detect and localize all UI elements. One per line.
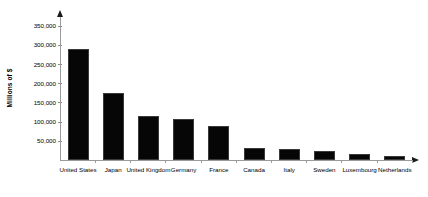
x-axis-tick-mark bbox=[236, 160, 237, 163]
bar bbox=[314, 151, 335, 160]
bar bbox=[68, 49, 89, 160]
x-axis-tick-mark bbox=[165, 160, 166, 163]
x-axis-category-label: Netherlands bbox=[372, 166, 418, 174]
bar bbox=[103, 93, 124, 160]
bar bbox=[279, 149, 300, 160]
x-axis-tick-mark bbox=[306, 160, 307, 163]
bar-chart: Millions of $ 50,000100,000150,000200,00… bbox=[0, 0, 428, 197]
x-axis-tick-mark bbox=[412, 160, 413, 163]
x-axis-tick-mark bbox=[271, 160, 272, 163]
x-axis-tick-mark bbox=[341, 160, 342, 163]
x-axis-tick-mark bbox=[377, 160, 378, 163]
plot-area: 50,000100,000150,000200,000250,000300,00… bbox=[0, 0, 428, 197]
x-axis-tick-mark bbox=[95, 160, 96, 163]
x-axis-tick-mark bbox=[201, 160, 202, 163]
bar bbox=[138, 116, 159, 160]
bar bbox=[349, 154, 370, 160]
bar bbox=[208, 126, 229, 160]
bar bbox=[244, 148, 265, 160]
bar bbox=[173, 119, 194, 160]
bar bbox=[384, 156, 405, 160]
x-axis-tick-mark bbox=[130, 160, 131, 163]
